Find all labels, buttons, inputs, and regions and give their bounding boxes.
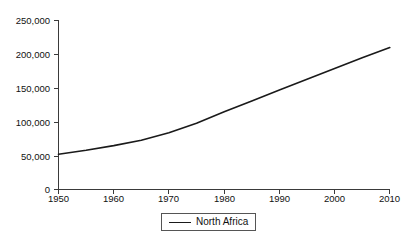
- x-axis-label-2000: 2000: [314, 193, 355, 204]
- x-axis-label-2010: 2010: [369, 193, 410, 204]
- chart-legend: North Africa: [161, 213, 256, 231]
- legend-label-north-africa: North Africa: [196, 217, 248, 227]
- y-axis-label-200000: 200,000: [16, 49, 50, 60]
- x-axis-label-1950: 1950: [38, 193, 79, 204]
- y-axis-label-250000: 250,000: [16, 15, 50, 26]
- x-axis-tick-labels: 1950 1960 1970 1980 1990 2000 2010: [0, 193, 413, 207]
- x-axis-label-1960: 1960: [93, 193, 134, 204]
- x-axis-label-1990: 1990: [259, 193, 300, 204]
- y-axis-label-50000: 50,000: [21, 151, 50, 162]
- series-line-north-africa: [59, 48, 390, 155]
- line-chart: 250,000 200,000 150,000 100,000 50,000 0…: [0, 0, 413, 247]
- x-axis-label-1970: 1970: [148, 193, 189, 204]
- plot-area: 250,000 200,000 150,000 100,000 50,000 0: [0, 0, 413, 200]
- y-axis-label-100000: 100,000: [16, 117, 50, 128]
- x-axis-label-1980: 1980: [204, 193, 245, 204]
- y-axis-label-150000: 150,000: [16, 83, 50, 94]
- legend-line-swatch-icon: [169, 222, 191, 223]
- chart-canvas: 250,000 200,000 150,000 100,000 50,000 0: [0, 0, 413, 200]
